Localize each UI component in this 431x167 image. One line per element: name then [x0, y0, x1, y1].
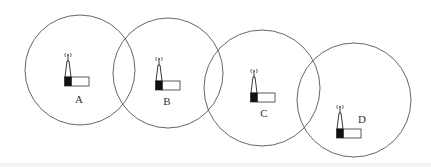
- cell-label: A: [75, 93, 83, 105]
- bottom-strip: [0, 163, 431, 167]
- base-station-icon: [156, 57, 181, 90]
- cell-d: D: [297, 43, 411, 157]
- coverage-circle: [204, 30, 320, 146]
- coverage-circle: [25, 15, 135, 125]
- cell-a: A: [25, 15, 135, 125]
- coverage-circle: [113, 18, 223, 128]
- cell-c: C: [204, 30, 320, 146]
- cell-label: B: [163, 95, 170, 107]
- cell-label: D: [358, 113, 366, 125]
- base-station-icon: [65, 53, 90, 86]
- coverage-diagram: ABCD: [0, 0, 431, 167]
- base-station-icon: [251, 69, 276, 102]
- coverage-circle: [297, 43, 411, 157]
- cell-b: B: [113, 18, 223, 128]
- cell-label: C: [260, 107, 267, 119]
